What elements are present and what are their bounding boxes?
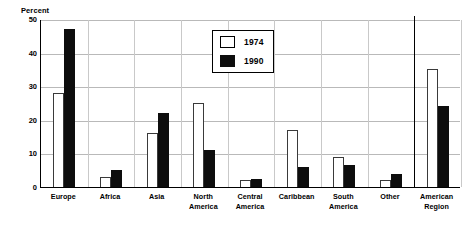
legend-swatch-1974-icon bbox=[220, 36, 235, 48]
category-label-asia: Asia bbox=[133, 192, 180, 202]
y-tick-20: 20 bbox=[3, 117, 40, 125]
legend-entry-1990: 1990 bbox=[220, 55, 264, 67]
category-label-line2: America bbox=[227, 202, 274, 212]
y-tick-50: 50 bbox=[3, 16, 40, 24]
bar-1974-africa bbox=[100, 177, 111, 187]
category-label-line2: America bbox=[320, 202, 367, 212]
bar-1990-europe bbox=[64, 29, 75, 187]
category-separator bbox=[461, 20, 462, 187]
bar-1990-south-america bbox=[344, 165, 355, 187]
category-label-line1: Europe bbox=[40, 192, 87, 202]
bar-1990-north-america bbox=[204, 150, 215, 187]
category-label-line1: Caribbean bbox=[273, 192, 320, 202]
bar-group-africa bbox=[88, 20, 135, 187]
legend-label-1990: 1990 bbox=[244, 56, 264, 66]
category-label-line1: Other bbox=[367, 192, 414, 202]
bar-group-asia bbox=[134, 20, 181, 187]
bar-1974-north-america bbox=[193, 103, 204, 187]
category-label-central-america: Central America bbox=[227, 192, 274, 211]
category-label-line1: Africa bbox=[87, 192, 134, 202]
y-tick-30: 30 bbox=[3, 83, 40, 91]
bar-1990-africa bbox=[111, 170, 122, 187]
bar-1974-caribbean bbox=[287, 130, 298, 187]
y-axis-tick-labels: 50 40 30 20 10 0 bbox=[0, 20, 40, 188]
legend-label-1974: 1974 bbox=[244, 37, 264, 47]
bar-1974-other bbox=[380, 180, 391, 187]
bar-group-other bbox=[368, 20, 415, 187]
bar-group-europe bbox=[41, 20, 88, 187]
bar-1990-american-region bbox=[438, 106, 449, 187]
category-label-north-america: North America bbox=[180, 192, 227, 211]
bar-group-south-america bbox=[321, 20, 368, 187]
category-label-south-america: South America bbox=[320, 192, 367, 211]
category-label-other: Other bbox=[367, 192, 414, 202]
category-label-line1: American bbox=[413, 192, 460, 202]
bar-group-caribbean bbox=[274, 20, 321, 187]
category-label-american-region: American Region bbox=[413, 192, 460, 211]
category-label-line1: Asia bbox=[133, 192, 180, 202]
category-label-caribbean: Caribbean bbox=[273, 192, 320, 202]
legend: 1974 1990 bbox=[212, 30, 274, 73]
y-tick-40: 40 bbox=[3, 50, 40, 58]
bar-1974-asia bbox=[147, 133, 158, 187]
category-label-line2: America bbox=[180, 202, 227, 212]
bar-1990-caribbean bbox=[298, 167, 309, 187]
bar-1990-central-america bbox=[251, 179, 262, 187]
x-axis-category-labels: Europe Africa Asia North America Central… bbox=[40, 192, 460, 232]
category-label-line1: South bbox=[320, 192, 367, 202]
y-axis-title: Percent bbox=[21, 6, 49, 15]
category-label-africa: Africa bbox=[87, 192, 134, 202]
y-tick-10: 10 bbox=[3, 150, 40, 158]
bar-1990-asia bbox=[158, 113, 169, 187]
legend-swatch-1990-icon bbox=[220, 55, 235, 67]
bar-group-american-region bbox=[414, 20, 461, 187]
bar-1990-other bbox=[391, 174, 402, 187]
category-label-line1: North bbox=[180, 192, 227, 202]
y-tick-0: 0 bbox=[3, 184, 40, 192]
bar-1974-south-america bbox=[333, 157, 344, 187]
category-label-line1: Central bbox=[227, 192, 274, 202]
bar-1974-central-america bbox=[240, 180, 251, 187]
category-label-europe: Europe bbox=[40, 192, 87, 202]
bar-chart: Percent 50 40 30 20 10 0 bbox=[0, 0, 469, 236]
legend-entry-1974: 1974 bbox=[220, 36, 264, 48]
bar-1974-europe bbox=[53, 93, 64, 187]
bar-1974-american-region bbox=[427, 69, 438, 187]
category-label-line2: Region bbox=[413, 202, 460, 212]
